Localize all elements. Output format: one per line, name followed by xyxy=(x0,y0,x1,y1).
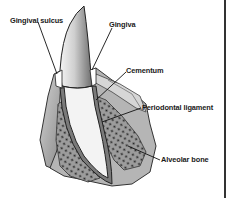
leader-gingival-sulcus xyxy=(38,22,57,74)
label-cementum: Cementum xyxy=(126,67,163,74)
label-gingiva: Gingiva xyxy=(109,21,135,28)
label-alveolar-bone: Alveolar bone xyxy=(161,156,209,163)
label-periodontal-ligament: Periodontal ligament xyxy=(142,104,213,111)
tooth-illustration xyxy=(0,0,229,198)
frame-border-line xyxy=(224,0,226,198)
leader-gingiva xyxy=(92,28,112,70)
tooth-crown xyxy=(60,6,92,88)
label-gingival-sulcus: Gingival sulcus xyxy=(10,17,63,24)
tooth-diagram: Gingival sulcus Gingiva Cementum Periodo… xyxy=(0,0,229,198)
